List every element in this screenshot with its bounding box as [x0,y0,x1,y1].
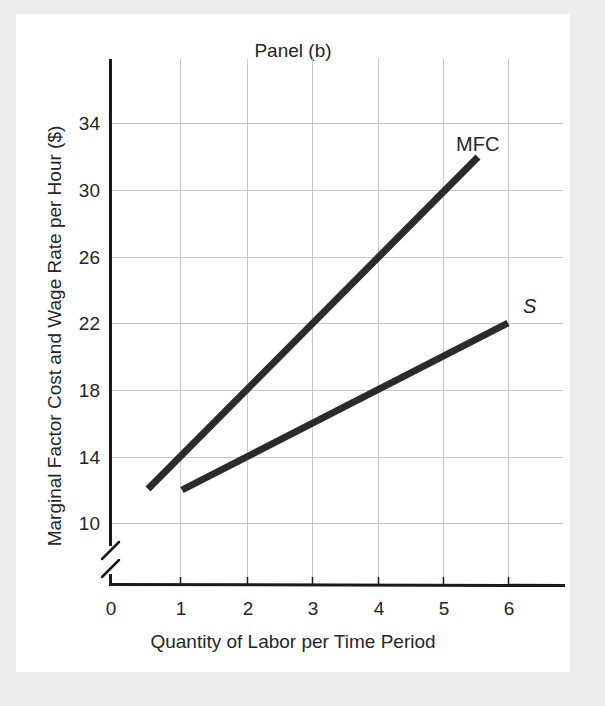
x-tick-label-6: 6 [494,598,524,620]
x-axis-ticks [181,577,509,584]
x-axis-line [109,585,565,586]
y-tick-label-26: 26 [60,247,100,269]
x-tick-label-2: 2 [233,598,263,620]
series-label-mfc: MFC [456,133,499,156]
y-tick-label-30: 30 [60,180,100,202]
y-axis-title: Marginal Factor Cost and Wage Rate per H… [44,66,66,606]
figure-card: Panel (b) [16,14,570,672]
x-tick-label-0: 0 [96,598,126,620]
x-tick-label-5: 5 [429,598,459,620]
y-tick-label-14: 14 [60,447,100,469]
x-tick-label-1: 1 [166,598,196,620]
figure-page: Panel (b) [0,0,605,706]
x-tick-label-3: 3 [298,598,328,620]
y-tick-label-22: 22 [60,313,100,335]
x-tick-label-4: 4 [364,598,394,620]
y-tick-label-10: 10 [60,513,100,535]
y-tick-label-18: 18 [60,380,100,402]
y-tick-label-34: 34 [60,113,100,135]
series-label-s: S [523,295,536,318]
x-axis-title: Quantity of Labor per Time Period [16,631,570,653]
axis-break-icon [102,542,119,577]
